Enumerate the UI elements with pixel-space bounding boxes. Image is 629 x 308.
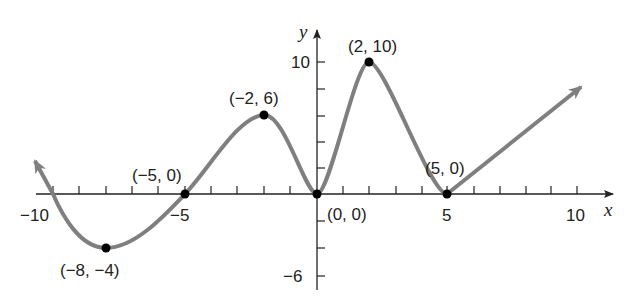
point-2-10 [365,58,374,67]
point-0-0 [313,190,322,199]
point-label-m8-m4: (−8, −4) [60,261,120,280]
y-tick-label-10: 10 [291,53,310,72]
point-5-0 [443,190,452,199]
point-label-0-0: (0, 0) [327,205,367,224]
point-label-5-0: (5, 0) [425,159,465,178]
point-label-2-10: (2, 10) [348,37,397,56]
x-tick-label-m5: −5 [170,206,189,225]
point-m5-0 [181,190,190,199]
y-axis-label: y [297,21,308,42]
y-tick-label-m6: −6 [283,267,302,286]
y-ticks [317,62,325,276]
point-m8-m4 [102,244,111,253]
point-label-m5-0: (−5, 0) [132,166,182,185]
x-axis-label: x [603,199,613,220]
point-m2-6 [260,111,269,120]
x-tick-label-m10: −10 [20,206,49,225]
x-tick-label-5: 5 [442,206,451,225]
point-label-m2-6: (−2, 6) [229,89,279,108]
function-graph: −10 −5 5 10 10 −6 x y (−8, −4) (−5, 0) (… [0,0,629,308]
x-tick-label-10: 10 [566,206,585,225]
curve-right-arrow [447,87,581,194]
curve-left-arrow [35,161,53,194]
